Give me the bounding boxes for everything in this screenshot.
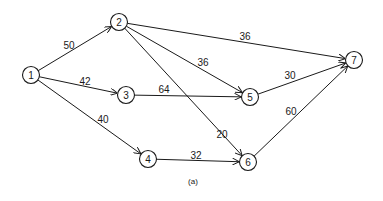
edges-layer — [38, 23, 348, 161]
edge-weight-1-2: 50 — [63, 40, 75, 51]
edge-6-7 — [254, 66, 347, 156]
node-7: 7 — [346, 52, 363, 69]
edge-weight-3-5: 64 — [158, 84, 170, 95]
edge-1-2 — [38, 27, 111, 71]
edge-weight-1-3: 42 — [79, 76, 91, 87]
edge-weight-1-4: 40 — [97, 114, 109, 125]
edge-2-7 — [127, 23, 345, 58]
node-label: 1 — [28, 70, 34, 81]
edge-weight-4-6: 32 — [190, 150, 202, 161]
nodes-layer: 1234567 — [23, 14, 363, 171]
node-label: 2 — [116, 17, 122, 28]
node-3: 3 — [118, 87, 135, 104]
node-4: 4 — [140, 151, 157, 168]
edge-weight-2-6: 20 — [216, 129, 228, 140]
edge-1-3 — [39, 77, 117, 93]
edge-weight-6-7: 60 — [285, 106, 297, 117]
node-label: 4 — [145, 154, 151, 165]
figure-caption: (a) — [188, 177, 198, 186]
edge-weight-2-7: 36 — [239, 31, 251, 42]
edge-weight-2-5: 36 — [197, 57, 209, 68]
edge-5-7 — [258, 63, 346, 94]
network-diagram: 50424036362064323060 1234567 (a) — [0, 0, 383, 201]
edge-weight-5-7: 30 — [284, 70, 296, 81]
node-1: 1 — [23, 67, 40, 84]
node-label: 7 — [351, 55, 357, 66]
node-label: 6 — [245, 157, 251, 168]
node-2: 2 — [111, 14, 128, 31]
node-5: 5 — [242, 89, 259, 106]
node-6: 6 — [240, 154, 257, 171]
node-label: 5 — [247, 92, 253, 103]
node-label: 3 — [123, 90, 129, 101]
edge-2-5 — [126, 26, 242, 92]
